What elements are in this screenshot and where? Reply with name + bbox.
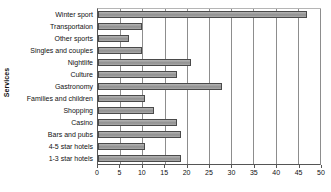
category-label: Nightlife	[12, 56, 96, 68]
x-tick-mark	[119, 165, 120, 168]
x-tick-mark	[321, 165, 322, 168]
category-label-column: Winter sportTransportaionOther sportsSin…	[12, 8, 96, 165]
category-label: Casino	[12, 117, 96, 129]
category-label: Gastronomy	[12, 80, 96, 92]
x-tick-mark	[164, 165, 165, 168]
x-tick-label: 50	[317, 169, 325, 176]
category-label: 1-3 star hotels	[12, 153, 96, 165]
category-label: Bars and pubs	[12, 129, 96, 141]
plot-area	[97, 8, 321, 165]
gridline	[320, 9, 321, 164]
bar-row	[98, 104, 320, 116]
bar-row	[98, 9, 320, 21]
x-tick-mark	[231, 165, 232, 168]
category-label: 4-5 star hotels	[12, 141, 96, 153]
x-tick-label: 20	[183, 169, 191, 176]
x-tick-mark	[254, 165, 255, 168]
category-label: Transportaion	[12, 20, 96, 32]
x-tick-mark	[97, 165, 98, 168]
x-tick-label: 30	[227, 169, 235, 176]
x-tick-label: 15	[160, 169, 168, 176]
bar-row	[98, 92, 320, 104]
bar	[98, 107, 154, 114]
x-tick-label: 25	[205, 169, 213, 176]
bar	[98, 119, 177, 126]
bar-chart: Services Winter sportTransportaionOther …	[0, 0, 331, 192]
bar	[98, 47, 142, 54]
bar-row	[98, 21, 320, 33]
bar	[98, 35, 129, 42]
x-tick-mark	[299, 165, 300, 168]
bar-row	[98, 69, 320, 81]
bar-row	[98, 140, 320, 152]
bar	[98, 131, 181, 138]
x-tick-label: 5	[117, 169, 121, 176]
x-tick-mark	[142, 165, 143, 168]
category-label: Singles and couples	[12, 44, 96, 56]
x-tick-label: 0	[95, 169, 99, 176]
category-label: Other sports	[12, 32, 96, 44]
bar-row	[98, 57, 320, 69]
category-label: Families and children	[12, 93, 96, 105]
bar	[98, 83, 222, 90]
x-axis: 05101520253035404550	[97, 165, 321, 185]
bar	[98, 23, 142, 30]
bar	[98, 143, 145, 150]
bar	[98, 11, 307, 18]
bar	[98, 95, 145, 102]
category-label: Winter sport	[12, 8, 96, 20]
x-tick-label: 45	[295, 169, 303, 176]
bar	[98, 71, 177, 78]
bar-row	[98, 33, 320, 45]
x-tick-label: 10	[138, 169, 146, 176]
bar	[98, 155, 181, 162]
x-tick-label: 40	[272, 169, 280, 176]
x-tick-label: 35	[250, 169, 258, 176]
x-tick-mark	[187, 165, 188, 168]
bar-row	[98, 152, 320, 164]
bar-row	[98, 116, 320, 128]
bar-row	[98, 45, 320, 57]
bar-row	[98, 81, 320, 93]
category-label: Shopping	[12, 105, 96, 117]
y-axis-title-label: Services	[4, 68, 11, 98]
x-tick-mark	[209, 165, 210, 168]
x-tick-mark	[276, 165, 277, 168]
bar-row	[98, 128, 320, 140]
category-label: Culture	[12, 68, 96, 80]
bar	[98, 59, 191, 66]
bars-layer	[98, 9, 320, 164]
